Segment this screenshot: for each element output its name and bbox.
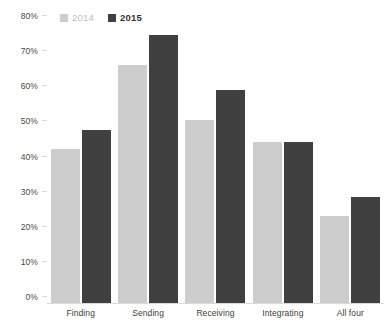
y-axis-tick: 20% — [0, 220, 47, 234]
bar-2014-all-four[interactable] — [320, 216, 349, 304]
legend-swatch-2014-icon — [60, 14, 68, 22]
x-axis-label-all-four: All four — [317, 307, 384, 319]
y-axis-tick: 70% — [0, 44, 47, 58]
y-axis-tick: 30% — [0, 185, 47, 199]
y-axis-tick-label: 50% — [21, 114, 38, 128]
y-axis-tick: 60% — [0, 79, 47, 93]
bars-layer — [47, 23, 384, 304]
legend-item-2014[interactable]: 2014 — [60, 13, 94, 23]
plot-area — [47, 23, 384, 304]
bar-group — [249, 23, 316, 304]
y-axis-tick: 10% — [0, 255, 47, 269]
x-axis: FindingSendingReceivingIntegratingAll fo… — [47, 307, 384, 327]
y-axis-tick: 80% — [0, 9, 47, 23]
bar-2015-all-four[interactable] — [351, 197, 380, 304]
y-axis-tick-label: 60% — [21, 79, 38, 93]
bar-2014-sending[interactable] — [118, 65, 147, 304]
bar-chart: 2014 2015 0%10%20%30%40%50%60%70%80% Fin… — [0, 0, 391, 335]
bar-2014-integrating[interactable] — [253, 142, 282, 304]
bar-2014-receiving[interactable] — [185, 120, 214, 304]
x-axis-label-finding: Finding — [47, 307, 114, 319]
bar-group — [182, 23, 249, 304]
bar-2015-finding[interactable] — [82, 130, 111, 304]
bar-group — [317, 23, 384, 304]
legend-swatch-2015-icon — [108, 14, 116, 22]
y-axis-tick: 0% — [0, 290, 47, 304]
y-axis-tick-label: 40% — [21, 150, 38, 164]
bar-group — [114, 23, 181, 304]
y-axis-tick: 40% — [0, 150, 47, 164]
y-axis-tick-label: 70% — [21, 44, 38, 58]
y-axis-tick-label: 30% — [21, 185, 38, 199]
x-axis-label-sending: Sending — [114, 307, 181, 319]
bar-2015-sending[interactable] — [149, 35, 178, 304]
legend-item-2015[interactable]: 2015 — [108, 13, 142, 23]
axis-baseline — [47, 303, 384, 304]
y-axis-tick: 50% — [0, 114, 47, 128]
bar-group — [47, 23, 114, 304]
x-axis-label-integrating: Integrating — [249, 307, 316, 319]
y-axis: 0%10%20%30%40%50%60%70%80% — [0, 16, 47, 311]
y-axis-tick-label: 0% — [26, 290, 39, 304]
bar-2014-finding[interactable] — [51, 149, 80, 304]
y-axis-tick-label: 10% — [21, 255, 38, 269]
bar-2015-integrating[interactable] — [284, 142, 313, 304]
bar-2015-receiving[interactable] — [216, 90, 245, 304]
y-axis-tick-mark — [42, 15, 47, 16]
x-axis-label-receiving: Receiving — [182, 307, 249, 319]
y-axis-tick-label: 80% — [21, 9, 38, 23]
legend-label-2015: 2015 — [120, 13, 142, 23]
y-axis-tick-label: 20% — [21, 220, 38, 234]
legend-label-2014: 2014 — [72, 13, 94, 23]
